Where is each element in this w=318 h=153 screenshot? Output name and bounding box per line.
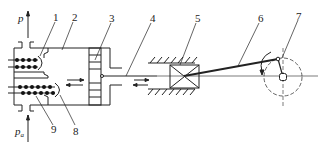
suction-pressure-arrow [27,115,30,142]
label-9: 9 [51,123,57,135]
discharge-pressure-arrow [27,11,30,38]
label-8: 8 [73,125,79,137]
connecting-rod [184,59,278,76]
label-5: 5 [195,12,201,24]
crosshead-guide-bottom [148,89,195,95]
label-4: 4 [150,12,156,24]
crosshead-guide-top [148,57,197,63]
label-1: 1 [53,11,59,23]
discharge-valve [8,56,42,70]
label-6: 6 [258,12,264,24]
motion-arrows-rod [133,79,149,87]
discharge-pressure-label: p [17,12,24,24]
suction-pressure-label: pa [14,125,25,139]
leader-lines [36,20,298,125]
label-3: 3 [109,12,115,24]
suction-valve [8,83,60,97]
compressor-diagram: p pa 1 2 3 4 5 6 7 8 9 [0,0,318,153]
motion-arrows-cylinder [66,79,84,87]
label-7: 7 [296,10,302,22]
label-2: 2 [72,11,78,23]
crank [260,48,302,106]
